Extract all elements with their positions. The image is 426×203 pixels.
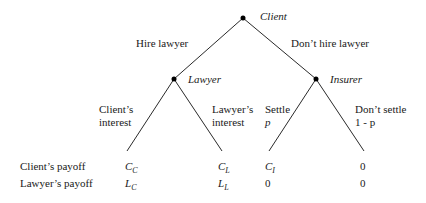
payoff-client-leaf-1: CC [125,160,138,174]
node-label-insurer: Insurer [330,73,362,86]
node-insurer [314,77,319,82]
node-lawyer [172,77,177,82]
edge-label-client-interest: Client’s interest [99,103,133,129]
node-label-client: Client [260,10,287,23]
edge-client-interest [127,79,174,151]
node-label-lawyer: Lawyer [188,73,221,86]
payoff-client-leaf-4: 0 [360,160,366,173]
payoff-client-leaf-3: CI [265,160,275,174]
payoff-lawyer-leaf-3: 0 [265,177,271,190]
edge-label-dont-hire-lawyer: Don’t hire lawyer [291,37,369,50]
edge-label-dont-settle: Don’t settle 1 - p [355,103,406,129]
edge-label-hire-lawyer: Hire lawyer [136,37,188,50]
payoff-client-leaf-2: CL [218,160,230,174]
edge-label-lawyer-interest: Lawyer’s interest [212,103,253,129]
edge-label-settle: Settle p [265,103,290,129]
payoff-lawyer-leaf-2: LL [218,177,229,191]
row-label-client-payoff: Client’s payoff [20,160,85,173]
row-label-lawyer-payoff: Lawyer’s payoff [20,177,93,190]
payoff-lawyer-leaf-4: 0 [360,177,366,190]
payoff-lawyer-leaf-1: LC [125,177,136,191]
node-client [241,16,246,21]
